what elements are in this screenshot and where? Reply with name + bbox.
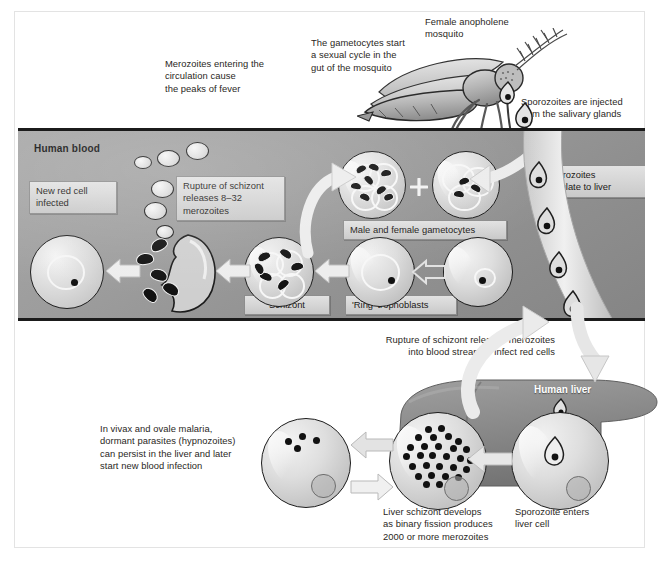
caption-liver-schizont-develops: Liver schizont develops as binary fissio…: [383, 506, 533, 543]
bursting-schizont-icon: [128, 229, 220, 317]
chip-new-red-cell: New red cell infected: [29, 181, 117, 214]
flow-arrow-injection-icon: [470, 135, 550, 195]
flow-arrow-icon: [468, 446, 512, 472]
human-blood-panel: Human blood New red cell infected Ruptur…: [18, 128, 645, 321]
figure-frame: Merozoites entering the circulation caus…: [14, 11, 645, 548]
caption-merozoites-fever: Merozoites entering the circulation caus…: [165, 58, 325, 95]
female-gametocyte-cell-icon: [432, 151, 500, 219]
free-merozoite-icon: [157, 150, 180, 167]
ring-trophoblast-cell-icon: [443, 237, 513, 307]
free-merozoite-icon: [134, 156, 152, 169]
plus-icon: [410, 178, 428, 196]
caption-sporozoite-enters-liver-cell: Sporozoite enters liver cell: [515, 506, 645, 531]
flow-arrow-curved-icon: [302, 153, 362, 257]
hypnozoite-liver-cell-icon: [261, 418, 351, 508]
sporozoite-icon: [536, 207, 558, 235]
sporozoite-icon: [548, 251, 570, 279]
flow-arrow-icon: [315, 259, 349, 283]
chip-male-female-gametocytes: Male and female gametocytes: [343, 220, 507, 240]
sporozoite-icon: [543, 436, 567, 467]
schizont-cell-icon: [244, 237, 314, 307]
red-blood-cell-icon: [30, 235, 104, 309]
free-merozoite-icon: [156, 225, 174, 239]
flow-arrow-icon: [106, 259, 140, 283]
flow-arrow-icon: [413, 261, 445, 283]
sporozoite-icon: [515, 102, 535, 129]
blood-vessel-channel: [514, 128, 644, 321]
sporozoite-icon: [499, 81, 517, 105]
chip-sporozoites-circulate: Sporozoites circulate to liver: [539, 165, 645, 198]
chip-schizont: Schizont: [244, 295, 330, 315]
flow-arrow-down-to-liver-icon: [571, 308, 615, 384]
flow-arrow-icon: [351, 474, 393, 500]
flow-arrow-icon: [351, 432, 393, 458]
male-gametocyte-cell-icon: [338, 151, 406, 219]
flow-arrow-to-blood-icon: [425, 300, 550, 418]
free-merozoite-icon: [151, 180, 174, 198]
flow-arrow-icon: [216, 259, 250, 283]
human-blood-label: Human blood: [34, 143, 100, 154]
ring-trophoblast-cell-icon: [345, 237, 415, 307]
free-merozoite-icon: [144, 202, 167, 220]
free-merozoite-icon: [186, 142, 209, 160]
sporozoite-icon: [528, 161, 550, 189]
chip-rupture-releases: Rupture of schizont releases 8–32 merozo…: [176, 176, 285, 221]
